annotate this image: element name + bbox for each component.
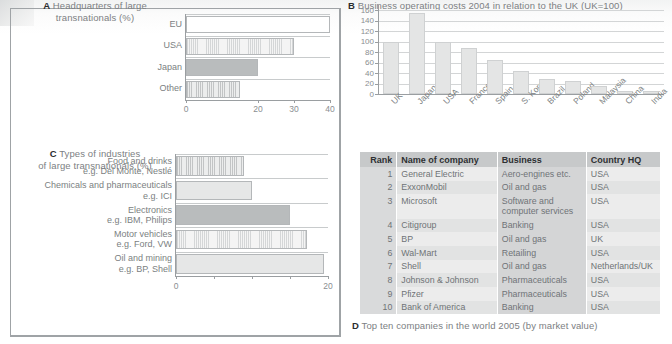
- cell-company: Citigroup: [397, 219, 498, 233]
- chart-c-category-line: Motor vehicles: [114, 229, 172, 239]
- cell-business: Pharmaceuticals: [497, 287, 586, 301]
- cell-country: USA: [586, 287, 660, 301]
- chart-c-category-line: Food and drinks: [107, 156, 172, 166]
- cell-company: BP: [397, 232, 498, 246]
- chart-b-bar: [487, 60, 503, 94]
- cell-business: Banking: [497, 219, 586, 233]
- chart-d-caption-letter: D: [352, 320, 359, 331]
- chart-b-bar: [409, 13, 425, 94]
- column-header-country: Country HQ: [586, 152, 660, 167]
- table-row: 1General ElectricAero-engines etc.USA: [360, 167, 660, 181]
- chart-c-plot-area: [176, 154, 328, 276]
- chart-c-category-line: Oil and mining: [114, 253, 172, 263]
- chart-b-y-tick-label: 0: [358, 90, 374, 99]
- chart-c-x-tick: [290, 276, 291, 279]
- chart-c-category-label: Food and drinkse.g. Del Monte, Nestlé: [0, 156, 172, 177]
- chart-c-bar: [176, 156, 244, 176]
- cell-country: USA: [586, 301, 660, 315]
- chart-a-x-tick: [186, 100, 187, 103]
- chart-b-y-tick-label: 80: [358, 48, 374, 57]
- chart-c-x-tick-label: 20: [316, 281, 340, 291]
- chart-c-category-label: Oil and mininge.g. BP, Shell: [0, 253, 172, 274]
- chart-b-y-tick-label: 100: [358, 37, 374, 46]
- cell-business: Oil and gas: [497, 232, 586, 246]
- chart-c-category-line: e.g. IBM, Philips: [107, 215, 172, 225]
- cell-rank: 2: [360, 181, 397, 195]
- cell-rank: 10: [360, 301, 397, 315]
- chart-b-y-tick-label: 40: [358, 69, 374, 78]
- chart-c-gridline: [176, 178, 328, 179]
- chart-c-category-label: Chemicals and pharmaceuticalse.g. ICI: [0, 180, 172, 201]
- chart-c-bar: [176, 254, 324, 274]
- chart-c-bar: [176, 181, 252, 201]
- table-header-row: Rank Name of company Business Country HQ: [360, 152, 660, 167]
- chart-b-y-tick-label: 20: [358, 79, 374, 88]
- chart-a-gridline: [186, 79, 330, 80]
- cell-company: Bank of America: [397, 301, 498, 315]
- chart-b-y-tick-label: 120: [358, 27, 374, 36]
- chart-a-bar: [186, 16, 330, 33]
- chart-c-category-line: e.g. ICI: [143, 191, 172, 201]
- cell-country: USA: [586, 167, 660, 181]
- chart-b-x-tick-label: India: [649, 86, 669, 106]
- cell-rank: 1: [360, 167, 397, 181]
- table-row: 2ExxonMobilOil and gasUSA: [360, 181, 660, 195]
- chart-c-bar: [176, 205, 290, 225]
- chart-b-bar: [461, 48, 477, 94]
- chart-a-category-label: Other: [90, 83, 182, 94]
- chart-c-x-tick-label: 0: [164, 281, 188, 291]
- chart-a-caption-letter: A: [43, 0, 50, 11]
- chart-b-operating-costs: 020406080100120140160UKJapanUSAFranceSpa…: [348, 0, 672, 145]
- chart-c-category-line: Electronics: [128, 205, 172, 215]
- chart-d-caption-text: Top ten companies in the world 2005 (by …: [362, 320, 598, 331]
- chart-a-bar: [186, 59, 258, 76]
- cell-country: USA: [586, 273, 660, 287]
- cell-company: Johnson & Johnson: [397, 273, 498, 287]
- chart-a-bar: [186, 38, 294, 55]
- cell-company: Pfizer: [397, 287, 498, 301]
- chart-b-caption-letter: B: [348, 0, 355, 11]
- column-header-rank: Rank: [360, 152, 397, 167]
- chart-c-category-line: e.g. BP, Shell: [119, 264, 172, 274]
- chart-a-x-tick-label: 40: [318, 104, 342, 114]
- chart-c-category-label: Motor vehiclese.g. Ford, VW: [0, 229, 172, 250]
- chart-c-y-axis-line: [175, 154, 176, 277]
- chart-c-bar: [176, 230, 307, 250]
- cell-business: Retailing: [497, 246, 586, 260]
- cell-rank: 8: [360, 273, 397, 287]
- cell-business: Pharmaceuticals: [497, 273, 586, 287]
- chart-b-y-tick-label: 140: [358, 16, 374, 25]
- chart-a-x-tick: [330, 100, 331, 103]
- chart-a-category-label: EU: [90, 19, 182, 30]
- chart-c-x-tick: [252, 276, 253, 279]
- chart-c-x-tick: [328, 276, 329, 279]
- cell-rank: 5: [360, 232, 397, 246]
- table-row: 4CitigroupBankingUSA: [360, 219, 660, 233]
- table-row: 6Wal-MartRetailingUSA: [360, 246, 660, 260]
- chart-b-bar: [435, 42, 451, 95]
- chart-a-bar: [186, 81, 240, 98]
- cell-rank: 7: [360, 260, 397, 274]
- chart-c-gridline: [176, 227, 328, 228]
- chart-c-types-of-industries: Food and drinkse.g. Del Monte, NestléChe…: [0, 148, 340, 338]
- chart-b-plot-area: 020406080100120140160UKJapanUSAFranceSpa…: [378, 10, 664, 94]
- chart-a-gridline: [186, 36, 330, 37]
- cell-company: Shell: [397, 260, 498, 274]
- table-row: 7ShellOil and gasNetherlands/UK: [360, 260, 660, 274]
- cell-country: Netherlands/UK: [586, 260, 660, 274]
- table-row: 9PfizerPharmaceuticalsUSA: [360, 287, 660, 301]
- chart-c-x-tick: [214, 276, 215, 279]
- chart-c-gridline: [176, 203, 328, 204]
- chart-c-category-line: Chemicals and pharmaceuticals: [44, 180, 172, 190]
- table-row: 5BPOil and gasUK: [360, 232, 660, 246]
- chart-c-x-tick: [176, 276, 177, 279]
- chart-a-gridline: [186, 14, 330, 15]
- cell-rank: 6: [360, 246, 397, 260]
- chart-a-y-axis-line: [185, 14, 186, 100]
- cell-company: Wal-Mart: [397, 246, 498, 260]
- chart-a-plot-area: [186, 14, 330, 100]
- column-header-name: Name of company: [397, 152, 498, 167]
- chart-b-y-tick-label: 60: [358, 58, 374, 67]
- cell-business: Aero-engines etc.: [497, 167, 586, 181]
- cell-company: Microsoft: [397, 194, 498, 218]
